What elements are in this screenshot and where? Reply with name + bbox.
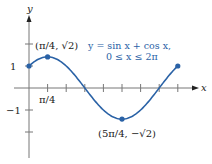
y-tick-label-1: 1 xyxy=(10,61,16,72)
point-max xyxy=(45,54,50,59)
point-end xyxy=(175,63,180,68)
point-start xyxy=(26,63,31,68)
annotation-min: (5π/4, −√2) xyxy=(98,128,156,139)
x-axis-label: x xyxy=(201,82,207,93)
equation-label: y = sin x + cos x, xyxy=(87,40,171,51)
point-min xyxy=(119,117,124,122)
x-axis-arrow-icon xyxy=(192,86,199,91)
y-axis-label: y xyxy=(26,3,33,14)
y-axis-arrow-icon xyxy=(27,15,32,22)
annotation-max: (π/4, √2) xyxy=(35,40,78,51)
y-tick-label-neg1: −1 xyxy=(6,105,21,116)
domain-label: 0 ≤ x ≤ 2π xyxy=(106,51,158,62)
x-tick-label-pi-over-4: π/4 xyxy=(39,94,55,105)
chart: y 1 −1 x π/4 (π/4, √2) (5π/4, −√2) y = s… xyxy=(0,0,212,164)
